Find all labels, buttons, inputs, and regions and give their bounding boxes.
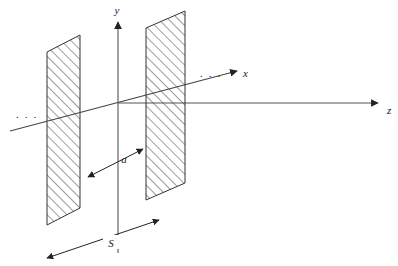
left-ellipsis-dots: . . . <box>16 108 38 120</box>
x-axis-label: x <box>242 67 248 79</box>
x-axis-line <box>10 71 237 131</box>
right-plate-hatch-fill <box>146 11 185 200</box>
z-axis-label: z <box>386 104 392 116</box>
left-plate <box>47 35 80 225</box>
plate-separation-arrow <box>88 149 143 177</box>
y-axis-label: y <box>114 4 120 16</box>
right-plate <box>146 11 185 200</box>
plate-separation-label: a <box>121 153 127 165</box>
parallel-plate-diagram: y x z a S . . . . . . <box>0 0 398 266</box>
plate-width-label: S <box>108 237 114 249</box>
left-plate-hatch-fill <box>47 35 80 225</box>
figure-canvas: y x z a S . . . . . . <box>0 0 398 266</box>
right-ellipsis-dots: . . . <box>200 67 222 79</box>
